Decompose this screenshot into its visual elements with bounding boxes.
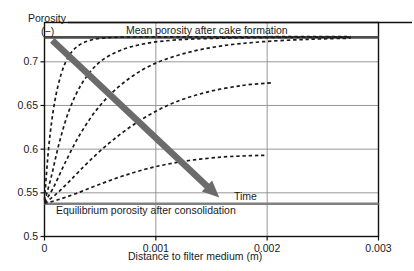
time-arrow-shaft [52,40,209,188]
x-tick-label: 0.002 [237,243,297,254]
y-tick-label: 0.6 [4,144,38,155]
reference-lines [45,37,379,203]
y-tick-label: 0.5 [4,231,38,242]
porosity-vs-distance-chart: Porosity (−) Distance to filter medium (… [0,0,414,271]
time-arrow-label: Time [234,191,257,202]
y-axis-title: Porosity [28,13,66,24]
mean-porosity-line-label: Mean porosity after cake formation [126,25,288,36]
x-tick-label: 0.003 [349,243,409,254]
y-tick-label: 0.7 [4,56,38,67]
x-tick-label: 0.001 [126,243,186,254]
y-tick-label: 0.55 [4,187,38,198]
y-tick-label: 0.65 [4,100,38,111]
x-tick-label: 0 [15,243,75,254]
equilibrium-porosity-line-label: Equilibrium porosity after consolidation [56,205,236,216]
chart-canvas [0,0,414,271]
y-axis-unit: (−) [41,26,54,37]
